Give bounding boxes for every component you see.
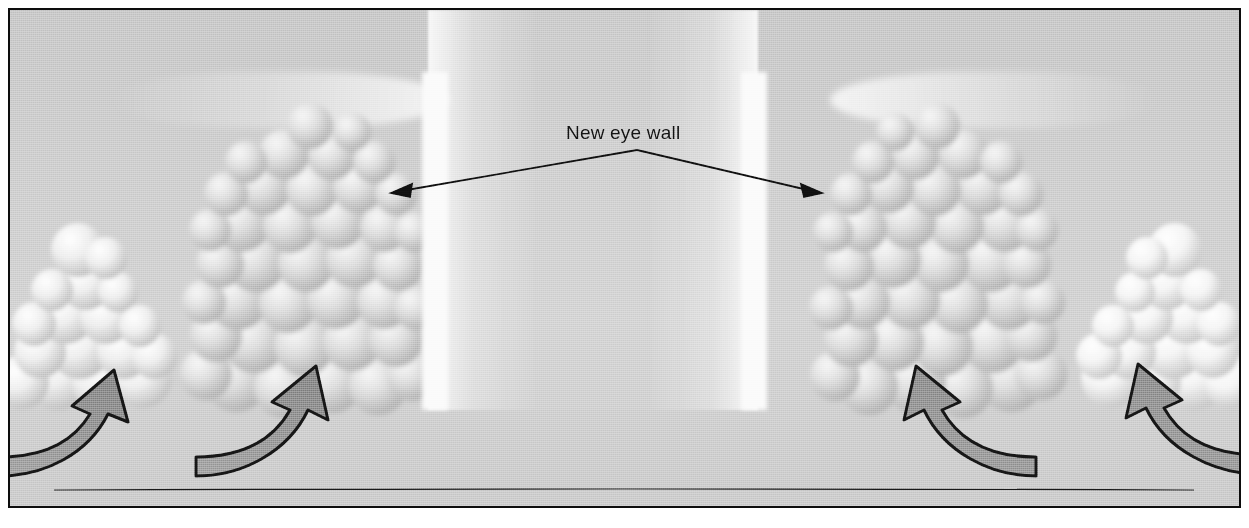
figure-canvas: New eye wall	[0, 0, 1249, 528]
figure-frame: New eye wall	[8, 8, 1241, 508]
inflow-arrow-outer-right	[1126, 364, 1241, 474]
inflow-arrow-inner-right	[904, 366, 1036, 476]
inflow-arrows-layer	[10, 10, 1241, 508]
inflow-arrow-inner-left	[196, 366, 328, 476]
inflow-arrow-outer-left	[10, 370, 128, 476]
annotation-label-new-eye-wall: New eye wall	[566, 122, 680, 144]
